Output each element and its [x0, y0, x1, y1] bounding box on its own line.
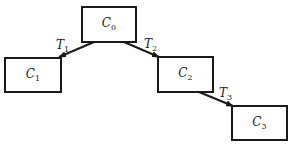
- node-c2: C2: [157, 56, 214, 93]
- node-c1: C1: [4, 57, 62, 93]
- node-label-base: C: [102, 16, 111, 30]
- edge-label-subscript: 3: [227, 93, 232, 102]
- node-label: C1: [26, 67, 40, 83]
- node-label-subscript: 3: [262, 122, 267, 131]
- edge-label-base: T: [56, 38, 64, 52]
- node-label-base: C: [26, 67, 35, 81]
- edge-label-t1: T1: [56, 38, 69, 54]
- node-label-subscript: 0: [111, 24, 116, 33]
- edge-label-t2: T2: [144, 37, 157, 53]
- edge-label-subscript: 1: [64, 45, 69, 54]
- node-c0: C0: [81, 6, 137, 43]
- node-label-base: C: [178, 66, 187, 80]
- node-label-base: C: [252, 115, 261, 129]
- node-label: C3: [252, 115, 266, 131]
- node-label-subscript: 2: [188, 74, 193, 83]
- edge-label-subscript: 2: [152, 44, 157, 53]
- node-c3: C3: [231, 105, 288, 141]
- node-label: C0: [102, 16, 116, 32]
- edge-label-t3: T3: [219, 86, 232, 102]
- edge-label-base: T: [144, 37, 152, 51]
- tree-diagram: T1T2T3C0C1C2C3: [0, 0, 292, 146]
- edge-label-base: T: [219, 86, 227, 100]
- node-label-subscript: 1: [35, 74, 40, 83]
- node-label: C2: [178, 66, 192, 82]
